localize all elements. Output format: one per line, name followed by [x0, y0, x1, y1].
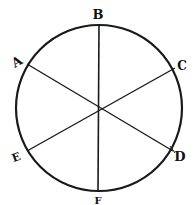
label-c: C: [177, 59, 187, 73]
label-e: E: [10, 150, 22, 165]
label-f: F: [94, 195, 101, 205]
circle-diagram: B A C D E F: [0, 0, 196, 205]
label-b: B: [93, 7, 104, 22]
label-d: D: [174, 149, 185, 164]
label-a: A: [8, 52, 26, 71]
diameter-b-f: [98, 24, 99, 192]
